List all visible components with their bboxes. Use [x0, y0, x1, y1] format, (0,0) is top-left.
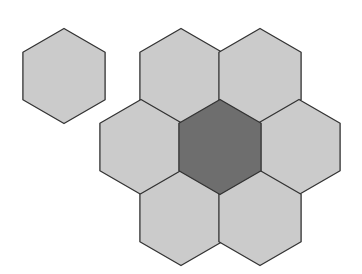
hexagon-cell-standalone: [23, 29, 105, 124]
hexagon-diagram: [0, 0, 362, 274]
hexagon-diagram-svg: [0, 0, 362, 274]
standalone-hexagon-group: [23, 29, 105, 124]
hexagon-cluster: [100, 29, 340, 266]
